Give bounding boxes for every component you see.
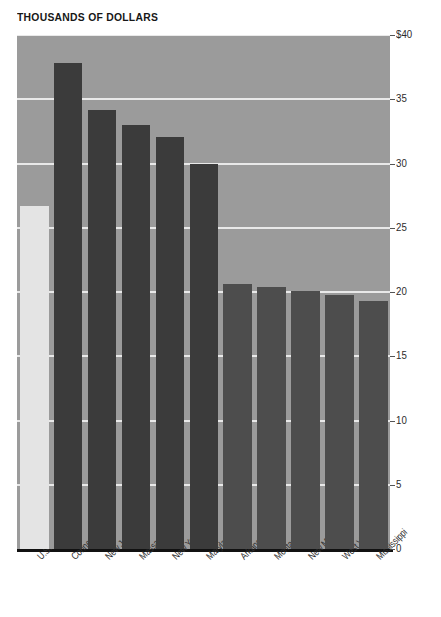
y-tick-mark-10: [390, 421, 395, 422]
bar-mississippi: [359, 301, 388, 549]
bar-u-s: [20, 206, 49, 549]
chart-title: THOUSANDS OF DOLLARS: [17, 11, 158, 23]
y-tick-mark-20: [390, 292, 395, 293]
gridline-40: [17, 35, 390, 36]
y-axis-label-25: 25: [396, 221, 407, 233]
plot-area: [17, 35, 390, 549]
bar-new-mexico: [291, 291, 320, 549]
bar-west-virginia: [325, 295, 354, 549]
y-axis-label-30: 30: [396, 157, 407, 169]
bar-arkansas: [223, 284, 252, 549]
bar-new-york: [156, 137, 185, 549]
y-axis-label-5: 5: [396, 478, 401, 490]
y-tick-mark-5: [390, 485, 395, 486]
bar-connecticut: [54, 63, 83, 549]
y-axis-label-35: 35: [396, 92, 407, 104]
y-tick-mark-35: [390, 99, 395, 100]
y-axis-label-15: 15: [396, 349, 407, 361]
y-tick-mark-40: [390, 35, 395, 36]
y-axis-label-20: 20: [396, 285, 407, 297]
bar-massachusetts: [122, 125, 151, 549]
bar-maryland: [190, 164, 219, 550]
y-tick-mark-30: [390, 164, 395, 165]
y-tick-mark-25: [390, 228, 395, 229]
bar-new-jersey: [88, 110, 117, 549]
y-axis-label-40: $40: [396, 28, 412, 40]
y-tick-mark-15: [390, 356, 395, 357]
bar-montana: [257, 287, 286, 549]
y-axis-label-10: 10: [396, 414, 407, 426]
chart-container: THOUSANDS OF DOLLARS 05101520253035$40 U…: [0, 0, 441, 617]
